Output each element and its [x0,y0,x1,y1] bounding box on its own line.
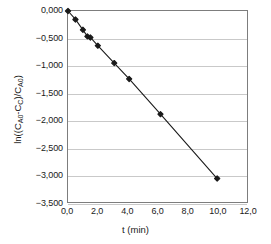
x-tick-label: 12,0 [228,206,268,216]
data-series [68,11,247,202]
gridline [68,204,247,205]
y-tick-label: 0,000 [3,5,63,15]
plot-area [67,10,248,203]
y-axis-title: ln((CA0-CC)/CA0) [12,35,23,185]
x-axis-tick-labels: 0,02,04,06,08,010,012,0 [0,206,271,220]
x-axis-title: t (min) [0,224,271,235]
chart-container: 0,000−0,500−1,000−1,500−2,000−2,500−3,00… [0,0,271,244]
